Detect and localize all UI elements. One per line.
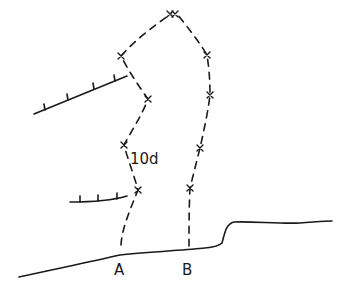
bolt-icon bbox=[121, 142, 127, 148]
lower-ledge bbox=[70, 193, 127, 202]
grade-label: 10d bbox=[130, 150, 159, 168]
ground-line bbox=[19, 221, 332, 277]
route-a-line bbox=[121, 14, 171, 245]
anchor-icon bbox=[167, 11, 178, 17]
bolt-icon bbox=[204, 52, 210, 58]
route-topo-diagram bbox=[0, 0, 348, 298]
bolt-icon bbox=[145, 96, 151, 102]
route-b-line bbox=[178, 15, 210, 246]
bolt-icon bbox=[118, 53, 124, 59]
route-b-label: B bbox=[182, 261, 192, 279]
upper-ledge bbox=[34, 75, 127, 114]
route-a-label: A bbox=[114, 261, 124, 279]
